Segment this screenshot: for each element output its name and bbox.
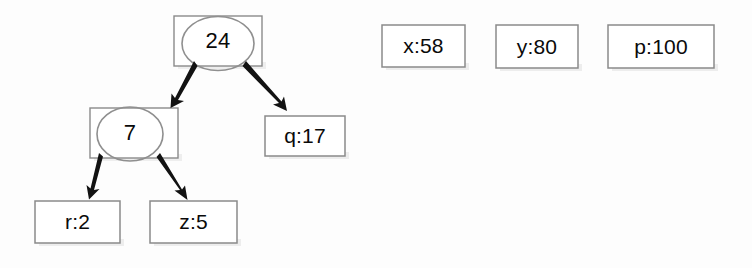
tree-node-leaf-right-rect[interactable] [150,201,237,243]
variable-box-p-rect[interactable] [608,25,714,68]
variable-box-x-rect[interactable] [382,25,465,67]
tree-node-right-child-rect[interactable] [265,116,345,156]
tree-node-left-child[interactable] [90,107,178,161]
diagram-svg-layer [0,0,752,268]
tree-node-root[interactable] [174,16,262,71]
tree-node-leaf-left-rect[interactable] [35,201,120,243]
variable-box-y-rect[interactable] [496,25,578,68]
diagram-canvas: 24 7 q:17 r:2 z:5 x:58 y:80 p:100 [0,0,752,268]
